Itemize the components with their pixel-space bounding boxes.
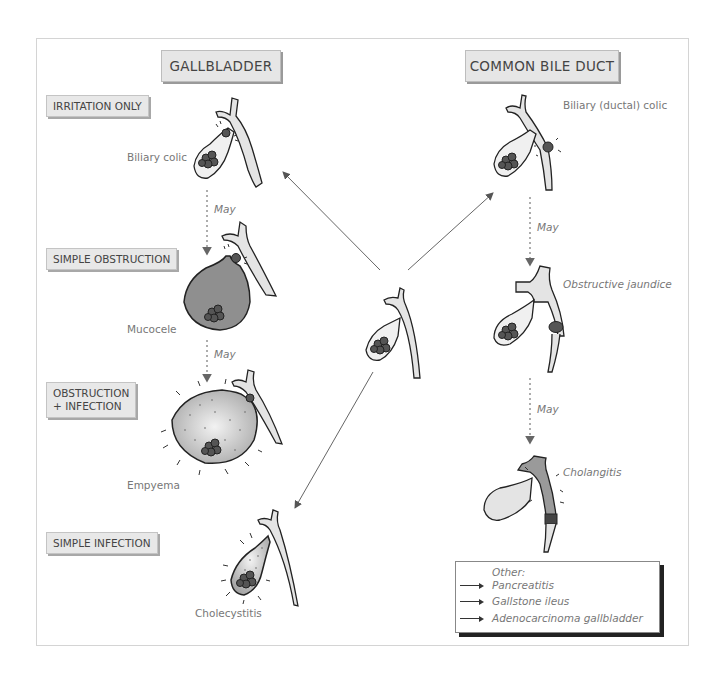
label-empyema: Empyema [127, 479, 180, 491]
illustration-obstructive-jaundice [494, 266, 564, 372]
label-cholecystitis: Cholecystitis [195, 607, 262, 619]
label-biliary-colic: Biliary colic [127, 151, 187, 163]
label-mucocele: Mucocele [127, 323, 177, 335]
tag-infection-line: + INFECTION [53, 400, 122, 413]
illustration-biliary-colic [194, 98, 262, 187]
arrow-right-icon [460, 601, 482, 602]
common-bile-duct-header: COMMON BILE DUCT [465, 50, 619, 82]
tag-obstruction-infection: OBSTRUCTION + INFECTION [46, 382, 136, 418]
illustration-cholecystitis [221, 510, 298, 606]
tag-simple-infection: SIMPLE INFECTION [46, 532, 158, 554]
may-label-3: May [537, 221, 559, 233]
legend-item-gallstone-ileus: Gallstone ileus [492, 595, 569, 607]
may-label-4: May [537, 403, 559, 415]
arrow-right-icon [460, 585, 482, 586]
illustration-center-gallbladder [366, 288, 420, 378]
gallbladder-header-label: GALLBLADDER [169, 58, 272, 74]
common-bile-duct-header-label: COMMON BILE DUCT [470, 58, 615, 74]
tag-simple-obstruction: SIMPLE OBSTRUCTION [46, 248, 177, 270]
arrow-right-icon [460, 618, 482, 619]
illustration-mucocele [184, 222, 276, 330]
label-ductal-colic: Biliary (ductal) colic [563, 99, 667, 111]
tag-irritation-only: IRRITATION ONLY [46, 95, 149, 117]
arrow-to-biliary-colic [283, 172, 380, 270]
arrow-to-cholecystitis [295, 372, 373, 508]
tag-simple-obstruction-label: SIMPLE OBSTRUCTION [53, 253, 170, 266]
label-cholangitis: Cholangitis [563, 466, 622, 478]
may-label-1: May [214, 203, 236, 215]
tag-obstruction-line: OBSTRUCTION [53, 387, 129, 400]
tag-irritation-only-label: IRRITATION ONLY [53, 100, 142, 113]
tag-simple-infection-label: SIMPLE INFECTION [53, 537, 151, 550]
label-obstructive-jaundice: Obstructive jaundice [563, 278, 672, 290]
gallbladder-header: GALLBLADDER [161, 50, 281, 82]
other-complications-legend: Other: Pancreatitis Gallstone ileus Aden… [455, 561, 660, 633]
illustration-cholangitis [484, 456, 564, 552]
legend-item-adenocarcinoma: Adenocarcinoma gallbladder [492, 612, 643, 624]
illustration-ductal-colic [494, 95, 561, 190]
legend-heading: Other: [492, 566, 525, 578]
legend-item-pancreatitis: Pancreatitis [492, 579, 554, 591]
arrow-to-ductal-colic [408, 193, 493, 270]
may-label-2: May [214, 348, 236, 360]
illustration-empyema [161, 370, 282, 475]
